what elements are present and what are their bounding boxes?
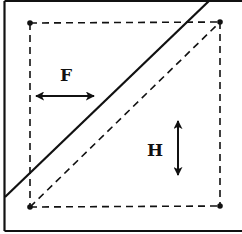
label-f: F xyxy=(60,65,72,85)
label-h: H xyxy=(147,140,163,160)
solid-diagonal xyxy=(5,0,210,197)
diagram-canvas: F H xyxy=(0,0,242,234)
corner-dot-top-right xyxy=(217,19,223,25)
dashed-bottom-edge xyxy=(30,206,220,207)
dashed-diagonal xyxy=(30,22,220,207)
corner-dot-bottom-left xyxy=(27,204,33,210)
corner-dot-bottom-right xyxy=(217,203,223,209)
corner-dot-top-left xyxy=(27,20,33,26)
dashed-top-edge xyxy=(30,22,220,23)
inner-dashed-square xyxy=(30,22,220,207)
